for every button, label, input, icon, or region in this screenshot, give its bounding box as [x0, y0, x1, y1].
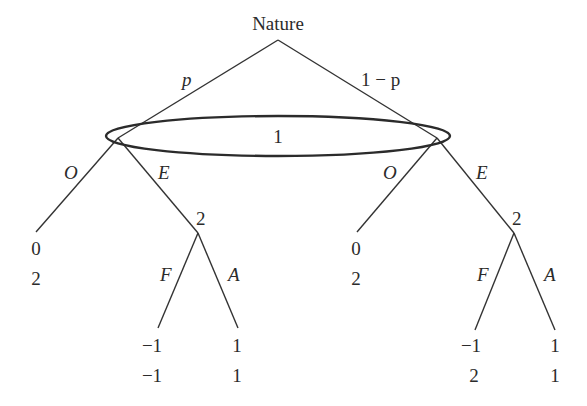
- right-O-payoff-1: 0: [351, 239, 361, 258]
- right-O-payoff-2: 2: [351, 269, 361, 288]
- left-O-payoff-2: 2: [31, 269, 41, 288]
- left-action-E-label: E: [158, 163, 170, 182]
- right-action-A-label: A: [544, 265, 556, 284]
- right-player2-label: 2: [512, 209, 522, 228]
- right-action-F-label: F: [477, 265, 489, 284]
- right-action-O-label: O: [383, 163, 397, 182]
- information-set-player-label: 1: [273, 127, 283, 146]
- left-player2-label: 2: [196, 209, 206, 228]
- left-A-payoff-2: 1: [232, 366, 242, 385]
- left-O-payoff-1: 0: [31, 239, 41, 258]
- left-F-payoff-2: −1: [142, 366, 162, 385]
- left-action-A-label: A: [228, 265, 240, 284]
- left-action-F-label: F: [160, 265, 172, 284]
- right-F-payoff-2: 2: [469, 366, 479, 385]
- right-F-payoff-1: −1: [461, 336, 481, 355]
- branch-label-1-minus-p: 1 − p: [361, 70, 400, 89]
- game-tree-edges: [0, 0, 587, 406]
- edge-left-O: [36, 138, 118, 232]
- left-F-payoff-1: −1: [142, 336, 162, 355]
- branch-label-p: p: [182, 70, 192, 89]
- left-action-O-label: O: [64, 163, 78, 182]
- left-A-payoff-1: 1: [232, 336, 242, 355]
- right-A-payoff-1: 1: [550, 336, 560, 355]
- right-A-payoff-2: 1: [550, 366, 560, 385]
- root-label: Nature: [252, 14, 304, 33]
- edge-right-E: [437, 138, 514, 233]
- right-action-E-label: E: [476, 163, 488, 182]
